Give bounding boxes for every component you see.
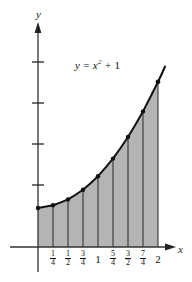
y-axis-arrowhead xyxy=(35,22,42,33)
y-axis-label: y xyxy=(36,8,41,20)
curve-equation-label: y = x2 + 1 xyxy=(75,58,120,71)
fraction-numerator: 7 xyxy=(140,250,146,258)
curve-point-2 xyxy=(66,197,70,201)
fraction: 32 xyxy=(125,250,131,268)
fraction: 54 xyxy=(110,250,116,268)
fraction-numerator: 3 xyxy=(80,250,86,258)
equation-constant: 1 xyxy=(114,59,120,71)
x-tick-label: 54 xyxy=(110,250,116,268)
figure-graph-of-y-equals-x-squared-plus-one: y x y = x2 + 1 14123415432742 xyxy=(0,0,192,282)
fraction-denominator: 4 xyxy=(140,259,146,267)
curve-point-6 xyxy=(126,135,130,139)
x-tick-label: 74 xyxy=(140,250,146,268)
fraction: 14 xyxy=(50,250,56,268)
curve-point-8 xyxy=(156,79,161,84)
fraction: 34 xyxy=(80,250,86,268)
fraction: 12 xyxy=(65,250,71,268)
fraction-numerator: 5 xyxy=(110,250,116,258)
fraction-numerator: 1 xyxy=(65,250,71,258)
x-tick-label: 14 xyxy=(50,250,56,268)
equation-lhs: y xyxy=(75,59,80,71)
fraction-denominator: 4 xyxy=(110,259,116,267)
curve-point-5 xyxy=(111,156,115,160)
equation-exponent: 2 xyxy=(98,58,102,66)
fraction-denominator: 4 xyxy=(50,259,56,267)
x-tick-label: 1 xyxy=(95,250,101,265)
curve-point-1 xyxy=(51,203,55,207)
equation-plus: + xyxy=(105,59,112,71)
plot-svg xyxy=(0,0,192,282)
equation-equals: = xyxy=(83,59,90,71)
fraction-denominator: 2 xyxy=(125,259,131,267)
fraction-denominator: 2 xyxy=(65,259,71,267)
x-tick-label: 32 xyxy=(125,250,131,268)
curve-point-7 xyxy=(141,109,145,113)
x-tick-label: 34 xyxy=(80,250,86,268)
curve-point-0 xyxy=(36,206,40,210)
x-tick-label: 2 xyxy=(155,250,161,265)
x-axis-tick-labels: 14123415432742 xyxy=(0,250,192,276)
x-tick-label: 12 xyxy=(65,250,71,268)
fraction-denominator: 4 xyxy=(80,259,86,267)
fraction-numerator: 1 xyxy=(50,250,56,258)
fraction: 74 xyxy=(140,250,146,268)
curve-point-3 xyxy=(81,188,85,192)
curve-point-4 xyxy=(96,174,100,178)
fraction-numerator: 3 xyxy=(125,250,131,258)
